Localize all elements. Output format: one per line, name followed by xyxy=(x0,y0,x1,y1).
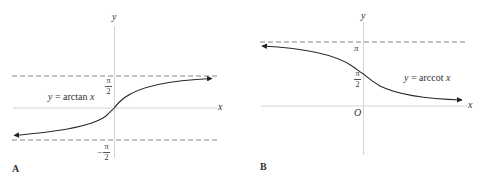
panel-b-curve-label: y = arccot x xyxy=(404,73,450,83)
curve-label-eq: = arctan xyxy=(52,91,90,102)
curve-label-x: x xyxy=(446,72,450,83)
panel-a-arctan-curve xyxy=(14,79,212,136)
panel-b-y-axis-label: y xyxy=(361,11,365,21)
panel-b-tick-pi-over-2: π 2 xyxy=(354,70,361,89)
tick-denominator: 2 xyxy=(105,154,109,162)
panel-a-tick-neg-pi-over-2: − π 2 xyxy=(97,143,110,162)
tick-numerator: π xyxy=(105,143,109,151)
panel-b-x-axis-label: x xyxy=(468,100,472,110)
tick-denominator: 2 xyxy=(356,81,360,89)
panel-b-graph xyxy=(260,22,467,155)
panel-a-label: A xyxy=(12,163,19,174)
tick-numerator: π xyxy=(355,70,359,78)
panel-a-graph xyxy=(12,26,218,158)
panel-a-tick-pi-over-2: π 2 xyxy=(105,77,112,96)
tick-numerator: π xyxy=(106,77,110,85)
curve-label-x: x xyxy=(90,91,94,102)
tick-fraction: π 2 xyxy=(103,143,110,162)
curve-label-eq: = arccot xyxy=(408,72,446,83)
panel-b-label: B xyxy=(260,161,267,172)
panel-b-tick-pi: π xyxy=(354,44,359,53)
panel-a-curve-label: y = arctan x xyxy=(48,92,94,102)
tick-denominator: 2 xyxy=(107,88,111,96)
tick-sign: − xyxy=(97,148,102,157)
panel-a-x-axis-label: x xyxy=(218,102,222,112)
panel-a-y-axis-label: y xyxy=(112,12,116,22)
panel-b-origin-label: O xyxy=(354,108,361,118)
